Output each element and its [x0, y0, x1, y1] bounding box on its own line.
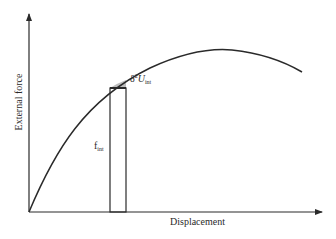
energy-symbol: U — [138, 73, 145, 84]
energy-increment-label: δ2Uint — [130, 73, 151, 85]
internal-force-label: fint — [94, 140, 104, 152]
force-curve — [29, 50, 302, 212]
force-displacement-diagram — [0, 0, 336, 239]
force-strip — [110, 88, 126, 212]
y-axis-label: External force — [13, 74, 24, 131]
energy-subscript: int — [145, 79, 151, 85]
x-axis-label: Displacement — [170, 216, 225, 227]
internal-force-subscript: int — [97, 146, 103, 152]
